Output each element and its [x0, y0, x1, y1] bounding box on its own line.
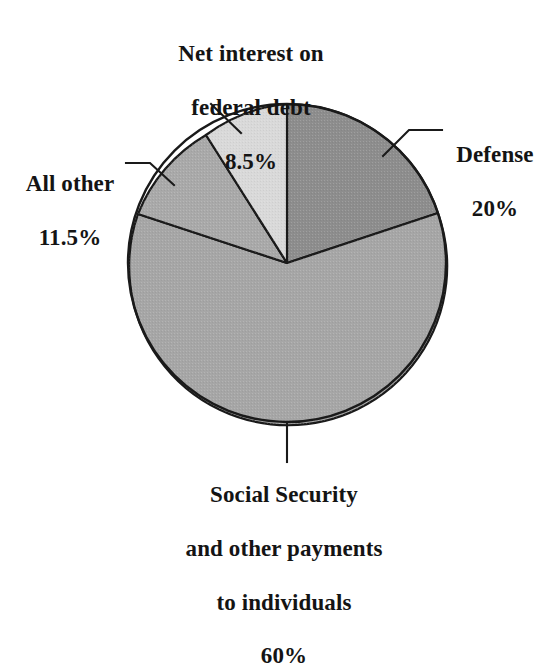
slice-label-social-security: Social Security and other payments to in…: [124, 455, 444, 667]
slice-label-social-security-value: 60%: [124, 643, 444, 667]
slice-label-all-other-value: 11.5%: [8, 225, 132, 252]
slice-label-all-other-line1: All other: [8, 171, 132, 198]
slice-label-all-other: All other 11.5%: [8, 144, 132, 279]
slice-label-social-security-line2: and other payments: [124, 536, 444, 563]
slice-label-social-security-line3: to individuals: [124, 590, 444, 617]
slice-label-net-interest-line2: federal debt: [136, 95, 366, 122]
slice-label-net-interest-line1: Net interest on: [136, 41, 366, 68]
slice-label-defense: Defense 20%: [446, 115, 544, 250]
slice-label-net-interest: Net interest on federal debt 8.5%: [136, 14, 366, 202]
slice-label-social-security-line1: Social Security: [124, 482, 444, 509]
slice-label-defense-value: 20%: [446, 196, 544, 223]
slice-label-net-interest-value: 8.5%: [136, 149, 366, 176]
slice-label-defense-line1: Defense: [446, 142, 544, 169]
